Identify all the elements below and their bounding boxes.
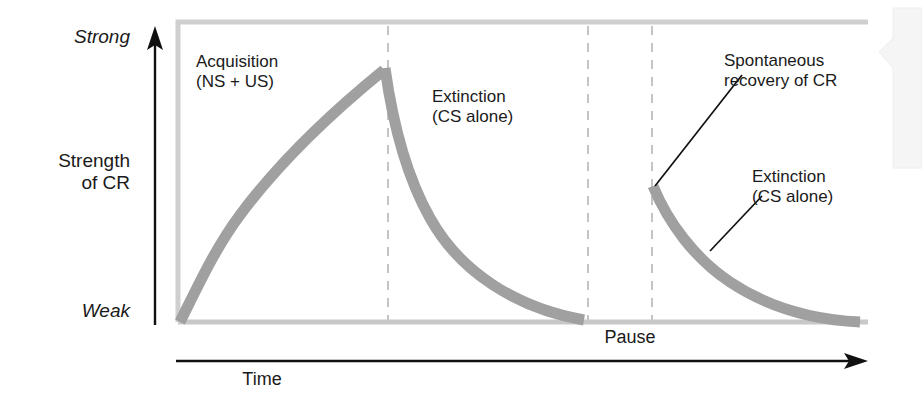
y-axis-title: Strength of CR (6, 150, 130, 195)
callout-decoration (879, 8, 922, 168)
annotation-spontaneous-recovery: Spontaneous recovery of CR (724, 51, 837, 91)
leader-line-spontaneous-recovery (655, 75, 742, 186)
annotation-extinction-second: Extinction (CS alone) (752, 167, 833, 207)
annotation-pause: Pause (583, 327, 677, 348)
figure-container: Strong Strength of CR Weak Time Acquisit… (0, 0, 922, 405)
annotation-extinction-first: Extinction (CS alone) (432, 87, 513, 127)
y-axis-top-tick-label: Strong (14, 26, 130, 48)
x-axis-title: Time (212, 369, 312, 390)
y-axis-bottom-tick-label: Weak (14, 300, 130, 322)
annotation-acquisition: Acquisition (NS + US) (196, 52, 278, 92)
acquisition-curve (180, 70, 384, 322)
